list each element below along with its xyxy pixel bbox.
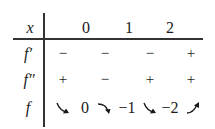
f-prime-sign-3: −: [146, 46, 154, 61]
row-label-f-prime: f′: [24, 46, 32, 62]
f-double-prime-sign-1: +: [59, 72, 67, 87]
header-label-x: x: [26, 20, 33, 36]
row-label-f-double-prime: f″: [23, 72, 34, 88]
f-prime-sign-4: +: [187, 46, 195, 61]
f-prime-sign-2: −: [101, 46, 109, 61]
header-point-1: 1: [125, 20, 133, 36]
f-value-at-1: −1: [118, 100, 135, 116]
header-point-0: 0: [82, 20, 90, 36]
f-double-prime-sign-3: +: [146, 72, 154, 87]
row-label-f: f: [26, 100, 30, 116]
arrow-down-right-concave-icon: [96, 101, 112, 115]
f-value-at-2: −2: [161, 100, 178, 116]
arrow-down-right-convex-icon: [142, 101, 158, 115]
vertical-divider: [43, 13, 45, 127]
f-prime-sign-1: −: [59, 46, 67, 61]
f-double-prime-sign-4: +: [187, 72, 195, 87]
f-double-prime-sign-2: −: [101, 72, 109, 87]
arrow-up-right-convex-icon: [185, 101, 201, 115]
header-point-2: 2: [166, 20, 174, 36]
f-value-at-0: 0: [81, 100, 89, 116]
horizontal-divider: [13, 38, 203, 40]
arrow-down-right-convex-icon: [55, 101, 71, 115]
